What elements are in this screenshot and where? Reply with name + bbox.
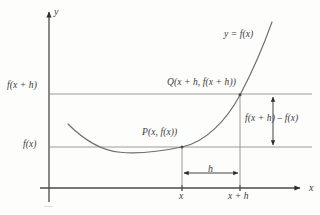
diagram-canvas [0, 0, 320, 215]
x-axis-label: x [309, 183, 314, 193]
y-value-label-f-x-plus-h: f(x + h) [7, 81, 37, 91]
rise-difference-label: f(x + h) – f(x) [245, 114, 298, 124]
y-value-label-f-x: f(x) [23, 140, 37, 150]
y-axis-label: y [54, 7, 59, 17]
point-q-marker [239, 93, 242, 96]
x-tick-label-x: x [179, 192, 183, 202]
run-h-label: h [208, 164, 213, 174]
curve-equation-label: y = f(x) [224, 30, 253, 40]
point-p-marker [181, 146, 184, 149]
point-q-label: Q(x + h, f(x + h)) [167, 78, 236, 88]
point-p-label: P(x, f(x)) [142, 128, 177, 138]
page-artifact-mark: — [44, 201, 53, 210]
figure-container: y x f(x + h) f(x) y = f(x) Q(x + h, f(x … [0, 0, 320, 215]
x-tick-label-x-plus-h: x + h [228, 192, 249, 202]
